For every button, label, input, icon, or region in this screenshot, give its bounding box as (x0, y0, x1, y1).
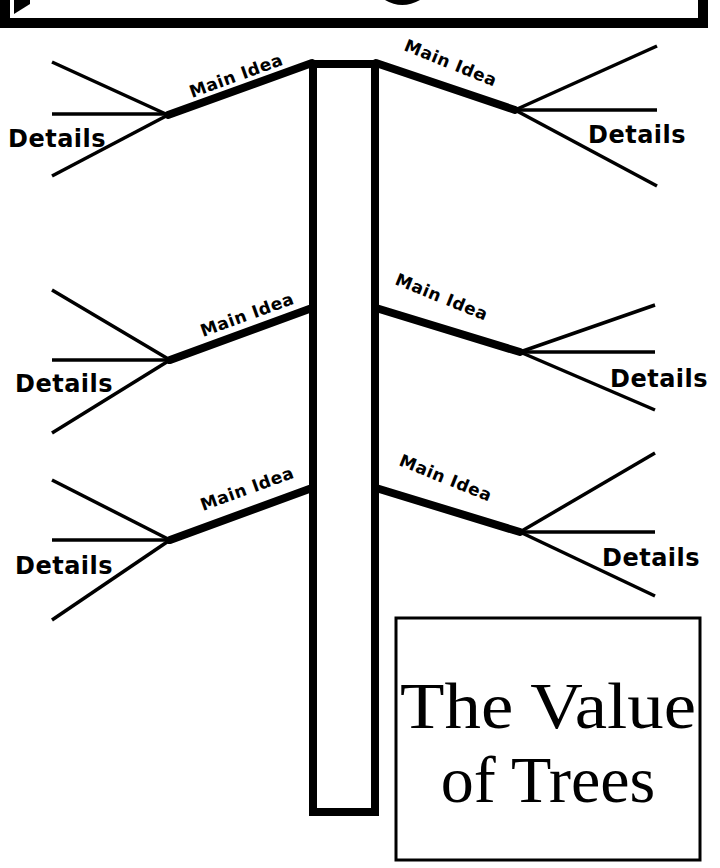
header-frame-border (5, 0, 703, 23)
title-line-1: The Value (400, 669, 696, 742)
tree-organizer-canvas: Main Idea Details Main Idea Details Main… (0, 0, 720, 868)
detail-line-upper (520, 305, 655, 352)
details-label: Details (602, 544, 700, 572)
title-box: The Value of Trees (396, 618, 700, 860)
branch-top-left: Main Idea Details (8, 49, 312, 176)
detail-line-upper (52, 290, 170, 360)
branch-top-right: Main Idea Details (376, 35, 686, 186)
branch-middle-right: Main Idea Details (376, 269, 708, 410)
header-frame (5, 0, 703, 23)
branch-bottom-right: Main Idea Details (376, 450, 700, 596)
main-idea-label: Main Idea (402, 35, 501, 90)
main-idea-label: Main Idea (198, 462, 297, 514)
main-idea-line (376, 488, 520, 532)
details-label: Details (8, 125, 106, 153)
header-frame-corner-mark (14, 0, 30, 14)
branch-bottom-left: Main Idea Details (15, 462, 312, 620)
detail-line-upper (52, 62, 168, 115)
detail-line-upper (52, 480, 170, 540)
details-label: Details (610, 365, 708, 393)
detail-line-upper (520, 453, 655, 532)
detail-line-upper (515, 46, 657, 110)
tree-diagram: Main Idea Details Main Idea Details Main… (0, 0, 720, 868)
main-idea-line (376, 308, 520, 352)
details-label: Details (588, 121, 686, 149)
details-label: Details (15, 552, 113, 580)
title-line-2: of Trees (441, 743, 656, 816)
tree-trunk (313, 64, 375, 812)
branch-middle-left: Main Idea Details (15, 288, 312, 433)
header-partial-glyph (385, 0, 420, 5)
details-label: Details (15, 370, 113, 398)
